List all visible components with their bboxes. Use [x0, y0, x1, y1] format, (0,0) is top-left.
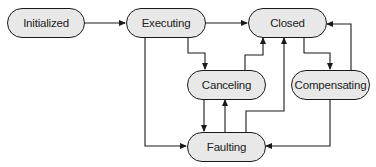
state-label: Closed	[270, 17, 305, 29]
edge-closed-compensating	[304, 37, 330, 69]
state-label: Canceling	[202, 79, 251, 91]
edge-executing-faulting	[145, 37, 186, 146]
state-label: Compensating	[295, 79, 367, 91]
state-compensating: Compensating	[291, 70, 370, 100]
state-label: Initialized	[23, 17, 69, 29]
state-label: Faulting	[207, 141, 246, 153]
edge-executing-canceling	[188, 37, 205, 69]
state-closed: Closed	[248, 8, 327, 38]
edge-canceling-closed	[245, 38, 263, 70]
state-label: Executing	[142, 17, 191, 29]
state-faulting: Faulting	[187, 132, 266, 162]
state-executing: Executing	[126, 8, 206, 38]
edge-compensating-closed	[327, 24, 351, 70]
state-canceling: Canceling	[187, 70, 266, 100]
edge-compensating-faulting	[266, 99, 330, 146]
state-initialized: Initialized	[7, 8, 85, 38]
